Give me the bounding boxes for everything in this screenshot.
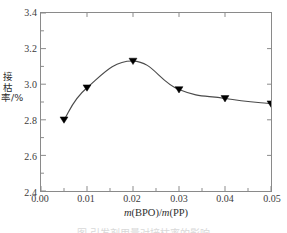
figure-chart-grafting-rate: 3.4 3.2 3.0 2.8 2.6 2.4 0.00 0.01 0.02 0… xyxy=(0,0,287,233)
data-series-markers xyxy=(60,58,271,123)
x-axis-title-bpo: (BPO)/ xyxy=(131,207,161,218)
data-series-line xyxy=(64,61,271,120)
y-axis-minor-ticks xyxy=(41,31,44,173)
plot-area xyxy=(40,12,272,192)
x-tick-label: 0.00 xyxy=(20,194,60,204)
x-axis-title: m(BPO)/m(PP) xyxy=(40,207,272,218)
y-axis-title: 接枯率/% xyxy=(1,72,14,104)
top-axis-ticks xyxy=(87,13,225,17)
figure-caption: 图 引发剂用量对接枯率的影响 xyxy=(0,225,287,233)
x-tick-label: 0.05 xyxy=(252,194,287,204)
x-tick-label: 0.02 xyxy=(112,194,152,204)
x-tick-label: 0.01 xyxy=(66,194,106,204)
plot-svg xyxy=(41,13,271,191)
x-axis-title-pp: (PP) xyxy=(169,207,188,218)
x-tick-label: 0.04 xyxy=(205,194,245,204)
data-point-marker xyxy=(60,117,68,123)
x-axis-minor-ticks xyxy=(64,188,248,191)
data-point-marker xyxy=(267,101,271,107)
data-point-marker xyxy=(175,87,183,93)
x-tick-label: 0.03 xyxy=(159,194,199,204)
